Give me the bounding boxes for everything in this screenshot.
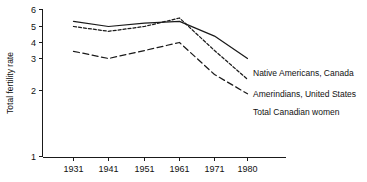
- x-tick-label-1941: 1941: [98, 164, 118, 174]
- y-tick-label-5: 5: [31, 22, 36, 32]
- fertility-rate-line-chart: 6 5 4 3 2 1 1931 1941 1951 1961 1971 198…: [0, 0, 367, 182]
- series-line-amerindians-united-states: [74, 18, 248, 79]
- series-line-total-canadian-women: [74, 43, 248, 94]
- y-tick-label-1: 1: [31, 152, 36, 162]
- legend-label-native-americans-canada: Native Americans, Canada: [253, 68, 354, 78]
- chart-canvas: 6 5 4 3 2 1 1931 1941 1951 1961 1971 198…: [0, 0, 367, 182]
- x-tick-label-1980: 1980: [237, 164, 257, 174]
- x-tick-label-1931: 1931: [63, 164, 83, 174]
- y-tick-label-6: 6: [31, 5, 36, 15]
- y-axis-ticks: 6 5 4 3 2 1: [31, 5, 43, 162]
- y-tick-label-3: 3: [31, 54, 36, 64]
- x-tick-label-1951: 1951: [134, 164, 154, 174]
- legend-label-total-canadian-women: Total Canadian women: [253, 107, 340, 117]
- x-tick-label-1961: 1961: [169, 164, 189, 174]
- legend-label-amerindians-united-states: Amerindians, United States: [253, 89, 356, 99]
- x-tick-label-1971: 1971: [204, 164, 224, 174]
- y-tick-label-2: 2: [31, 86, 36, 96]
- y-axis-title: Total fertility rate: [5, 52, 15, 114]
- series-line-native-americans-canada: [74, 21, 248, 58]
- y-tick-label-4: 4: [31, 38, 36, 48]
- x-axis-ticks: 1931 1941 1951 1961 1971 1980: [63, 158, 257, 175]
